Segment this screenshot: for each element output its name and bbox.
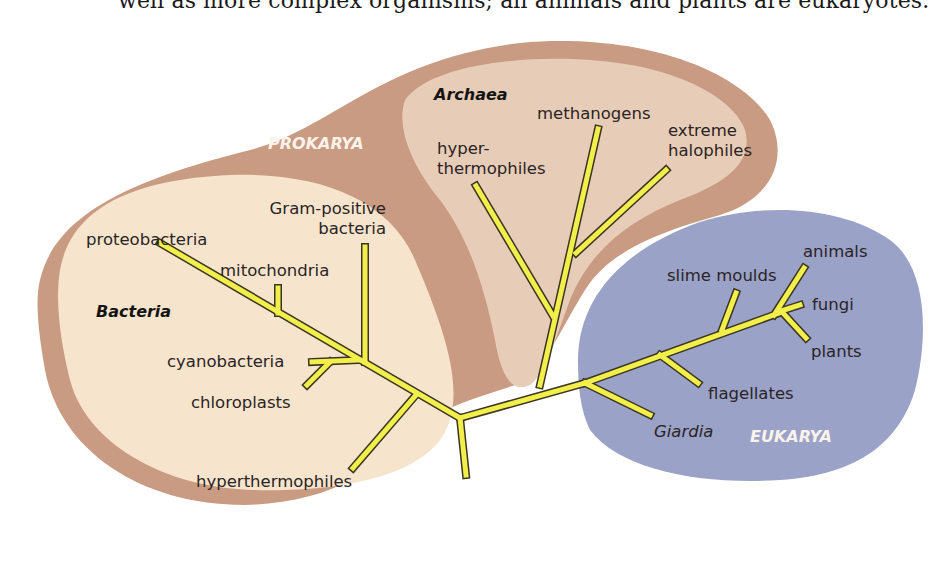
label-extreme-halophiles-line2: halophiles bbox=[668, 141, 752, 160]
branch-cyano-stem bbox=[312, 360, 358, 362]
label-plants: plants bbox=[811, 342, 862, 361]
domain-label-prokarya: PROKARYA bbox=[268, 134, 364, 153]
label-giardia: Giardia bbox=[654, 422, 713, 441]
label-fungi: fungi bbox=[812, 295, 854, 314]
branch-root bbox=[460, 418, 466, 475]
label-gram-positive-line1: Gram-positive bbox=[270, 199, 386, 218]
label-cyanobacteria: cyanobacteria bbox=[167, 352, 284, 371]
label-hyperthermophiles-archaea-line1: hyper- bbox=[437, 139, 490, 158]
label-chloroplasts: chloroplasts bbox=[191, 393, 291, 412]
label-hyperthermophiles-bacteria: hyperthermophiles bbox=[196, 472, 352, 491]
label-flagellates: flagellates bbox=[708, 384, 794, 403]
group-label-archaea: Archaea bbox=[432, 85, 508, 104]
label-animals: animals bbox=[803, 242, 868, 261]
label-extreme-halophiles-line1: extreme bbox=[668, 121, 737, 140]
label-proteobacteria: proteobacteria bbox=[86, 230, 207, 249]
tree-of-life-diagram: PROKARYA EUKARYA Bacteria Archaea proteo… bbox=[0, 0, 941, 573]
group-label-bacteria: Bacteria bbox=[96, 302, 171, 321]
label-hyperthermophiles-archaea-line2: thermophiles bbox=[437, 159, 546, 178]
domain-label-eukarya: EUKARYA bbox=[750, 427, 832, 446]
label-gram-positive-line2: bacteria bbox=[318, 219, 386, 238]
label-methanogens: methanogens bbox=[537, 104, 651, 123]
label-mitochondria: mitochondria bbox=[220, 261, 329, 280]
label-slime-moulds: slime moulds bbox=[667, 266, 777, 285]
